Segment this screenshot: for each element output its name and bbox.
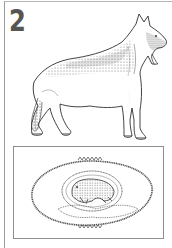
embryo-panel (13, 146, 164, 239)
frame-left-border (4, 2, 5, 248)
german-shepherd-illustration (6, 10, 172, 142)
frame-top-border (4, 1, 172, 2)
flashcard: 2 (0, 0, 172, 248)
placenta-embryo-illustration (14, 147, 165, 240)
